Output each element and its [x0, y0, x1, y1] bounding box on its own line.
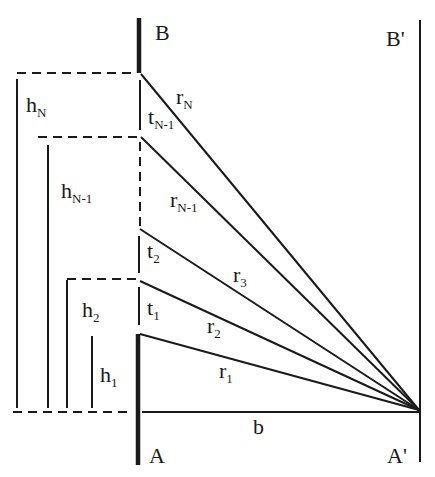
label-point-b: B	[155, 20, 170, 45]
label-height-h1: h1	[100, 362, 118, 390]
label-ray-r-n: rN	[176, 84, 193, 112]
ray-r3	[140, 229, 419, 410]
label-height-h-n-1: hN-1	[61, 178, 92, 206]
label-point-b-prime: B'	[386, 26, 405, 51]
ray-r-n	[141, 74, 419, 410]
label-height-h2: h2	[82, 297, 100, 325]
label-thickness-t2: t2	[147, 238, 160, 266]
label-baseline-b: b	[253, 414, 264, 439]
diagram-canvas: B B' A A' b rN rN-1 r3 r2 r1 tN-1 t2 t1 …	[0, 0, 435, 477]
label-ray-r-n-1: rN-1	[170, 187, 198, 215]
label-ray-r3: r3	[233, 262, 247, 290]
label-ray-r1: r1	[219, 358, 233, 386]
ray-geometry-diagram: B B' A A' b rN rN-1 r3 r2 r1 tN-1 t2 t1 …	[0, 0, 435, 477]
label-thickness-t1: t1	[147, 295, 160, 323]
label-height-h-n: hN	[26, 92, 47, 120]
label-point-a: A	[149, 443, 165, 468]
ray-r-n-1	[141, 137, 419, 410]
label-point-a-prime: A'	[387, 443, 407, 468]
